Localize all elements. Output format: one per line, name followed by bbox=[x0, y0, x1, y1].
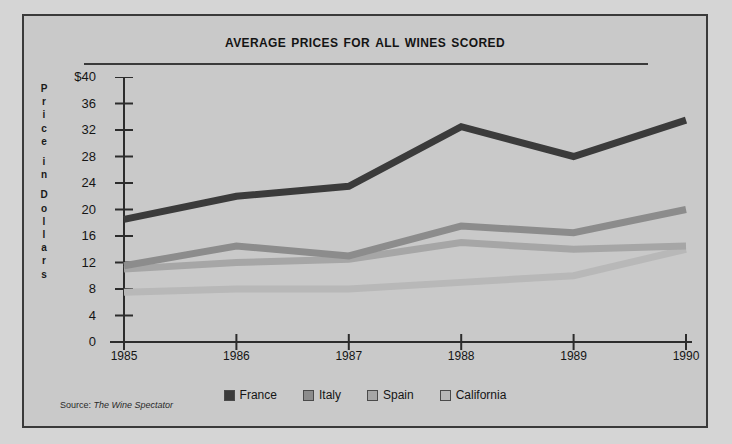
y-tick-label: 8 bbox=[50, 281, 96, 296]
x-tick-label: 1989 bbox=[544, 349, 604, 363]
y-tick-label: 24 bbox=[50, 175, 96, 190]
x-tick-label: 1985 bbox=[94, 349, 154, 363]
y-tick-label: $40 bbox=[50, 69, 96, 84]
series-line-france bbox=[124, 120, 686, 219]
y-tick-label: 12 bbox=[50, 255, 96, 270]
y-tick-label: 0 bbox=[50, 334, 96, 349]
y-tick-label: 4 bbox=[50, 308, 96, 323]
chart-frame: Average Prices for All Wines Scored Pric… bbox=[22, 14, 708, 428]
x-tick-label: 1986 bbox=[206, 349, 266, 363]
x-tick-label: 1988 bbox=[431, 349, 491, 363]
y-tick-label: 28 bbox=[50, 149, 96, 164]
x-tick-label: 1990 bbox=[656, 349, 716, 363]
axes-svg bbox=[100, 77, 692, 377]
legend-label: Spain bbox=[383, 388, 414, 402]
legend-swatch-icon bbox=[440, 390, 451, 401]
legend-swatch-icon bbox=[367, 390, 378, 401]
title-divider bbox=[84, 63, 648, 65]
legend-item-france[interactable]: France bbox=[224, 388, 277, 402]
y-tick-label: 32 bbox=[50, 122, 96, 137]
y-tick-label: 16 bbox=[50, 228, 96, 243]
source-note: Source: The Wine Spectator bbox=[60, 400, 173, 410]
series-line-spain bbox=[124, 243, 686, 270]
legend-label: Italy bbox=[319, 388, 341, 402]
source-prefix: Source: bbox=[60, 400, 91, 410]
legend-item-spain[interactable]: Spain bbox=[367, 388, 414, 402]
legend-swatch-icon bbox=[224, 390, 235, 401]
y-label-letter: l bbox=[33, 215, 55, 228]
legend-item-california[interactable]: California bbox=[440, 388, 507, 402]
x-tick-label: 1987 bbox=[319, 349, 379, 363]
series-line-italy bbox=[124, 210, 686, 266]
plot-area: 04812162024283236$4019851986198719881989… bbox=[100, 77, 692, 342]
source-publication: The Wine Spectator bbox=[94, 400, 173, 410]
series-line-california bbox=[124, 249, 686, 292]
legend-swatch-icon bbox=[303, 390, 314, 401]
y-tick-label: 20 bbox=[50, 202, 96, 217]
y-label-letter: a bbox=[33, 241, 55, 254]
chart-title: Average Prices for All Wines Scored bbox=[24, 32, 706, 52]
y-tick-label: 36 bbox=[50, 96, 96, 111]
legend-item-italy[interactable]: Italy bbox=[303, 388, 341, 402]
legend-label: France bbox=[240, 388, 277, 402]
y-label-letter: s bbox=[33, 268, 55, 281]
y-label-letter: D bbox=[33, 188, 55, 201]
legend-label: California bbox=[456, 388, 507, 402]
